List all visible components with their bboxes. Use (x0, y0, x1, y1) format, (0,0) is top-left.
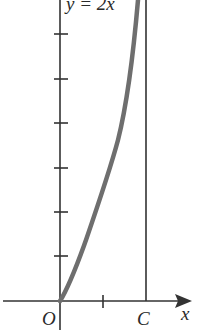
curve (60, 0, 138, 301)
point-c-label: C (137, 308, 150, 329)
y-axis-ticks (54, 34, 68, 256)
diagram-canvas: y = 2x O C x (0, 0, 199, 330)
origin-label: O (42, 308, 56, 329)
curve-label: y = 2x (64, 0, 115, 14)
x-axis-label: x (180, 303, 190, 324)
